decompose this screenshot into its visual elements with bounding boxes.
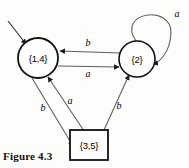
state-machine-diagram: {1,4} {2} {3,5} b a a b a b bbox=[0, 0, 189, 168]
figure-caption: Figure 4.3 bbox=[3, 150, 52, 162]
state-label-3-5: {3,5} bbox=[80, 140, 99, 151]
edge-label-s35-to-s14: a bbox=[68, 95, 73, 106]
state-label-1-4: {1,4} bbox=[29, 53, 48, 64]
edge-s35-to-s14-a bbox=[48, 77, 84, 131]
start-arrow bbox=[8, 21, 26, 44]
edge-s2-to-s14-b bbox=[60, 51, 120, 53]
figure-4-3-container: {1,4} {2} {3,5} b a a b a b Figure 4.3 bbox=[0, 0, 189, 168]
edge-label-s2-to-s14: b bbox=[86, 37, 91, 48]
edge-s14-to-s35-b bbox=[32, 78, 73, 146]
state-label-2: {2} bbox=[131, 54, 142, 65]
edge-label-s35-to-s2: b bbox=[117, 100, 122, 111]
edge-label-s14-to-s2: a bbox=[86, 68, 91, 79]
edge-label-s14-to-s35: b bbox=[41, 102, 46, 113]
edge-s14-to-s2-a bbox=[58, 66, 119, 67]
edge-label-s2-self-loop: a bbox=[175, 8, 180, 19]
